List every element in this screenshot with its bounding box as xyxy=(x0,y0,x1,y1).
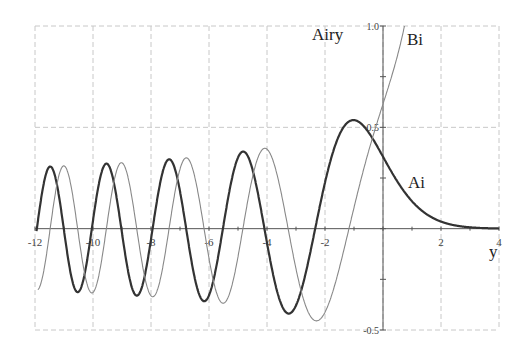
x-tick-label: -2 xyxy=(320,236,329,248)
bi-series-label: Bi xyxy=(407,30,423,50)
ai-series-label: Ai xyxy=(408,173,425,193)
y-tick-label: 1.0 xyxy=(367,21,380,32)
chart-title: Airy xyxy=(312,25,343,45)
x-tick-label: -10 xyxy=(86,236,101,248)
bi-curve xyxy=(38,0,450,321)
y-tick-label: -0.5 xyxy=(363,325,379,336)
airy-chart: -12-10-8-6-4-224-0.50.51.0 xyxy=(0,0,521,347)
x-tick-label: 2 xyxy=(438,236,444,248)
x-tick-label: -12 xyxy=(28,236,43,248)
ai-curve xyxy=(37,120,500,314)
x-axis-label: y xyxy=(489,242,498,262)
